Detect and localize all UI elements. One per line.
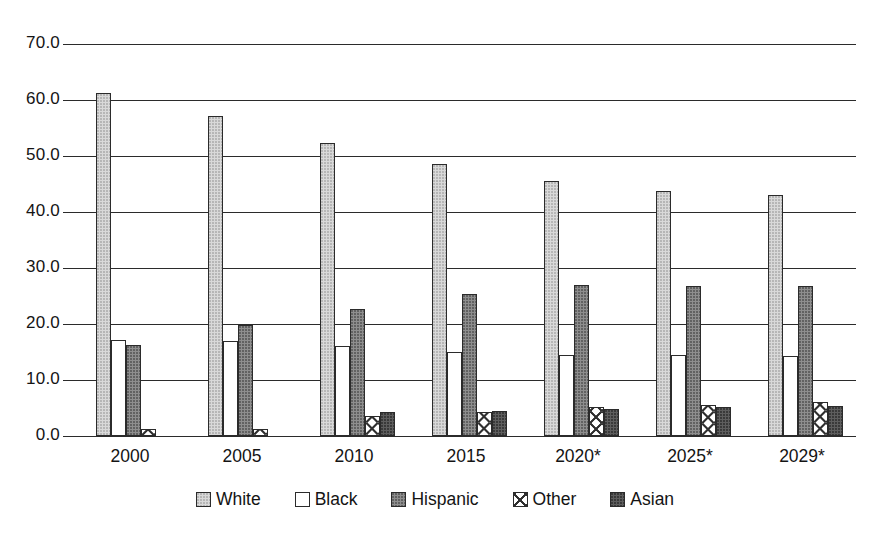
bar-asian-2020star bbox=[604, 409, 619, 436]
bar-asian-2025star bbox=[716, 407, 731, 436]
bar-group bbox=[72, 44, 184, 436]
bar-hispanic-2020star bbox=[574, 285, 589, 436]
legend-label: Hispanic bbox=[411, 489, 478, 510]
plot-area: 0.010.020.030.040.050.060.070.0 bbox=[72, 44, 856, 436]
legend-item-white[interactable]: White bbox=[196, 489, 261, 510]
x-axis-label-2005: 2005 bbox=[223, 446, 262, 467]
x-axis-labels: 20002005201020152020*2025*2029* bbox=[72, 446, 856, 476]
bar-white-2005 bbox=[208, 116, 223, 436]
bar-group bbox=[408, 44, 520, 436]
chart-legend: WhiteBlackHispanicOtherAsian bbox=[0, 484, 870, 514]
bar-white-2029star bbox=[768, 195, 783, 436]
x-axis-label-2010: 2010 bbox=[335, 446, 374, 467]
x-axis-label-2029star: 2029* bbox=[779, 446, 825, 467]
y-axis-tick-label: 10.0 bbox=[12, 369, 60, 389]
bar-black-2015 bbox=[447, 352, 462, 436]
bar-group bbox=[520, 44, 632, 436]
y-tick-mark bbox=[63, 212, 72, 213]
y-tick-mark bbox=[63, 268, 72, 269]
bar-hispanic-2015 bbox=[462, 294, 477, 436]
legend-swatch-black-icon bbox=[295, 492, 310, 507]
legend-swatch-white-icon bbox=[196, 492, 211, 507]
bar-other-2025star bbox=[701, 405, 716, 436]
x-axis-label-2025star: 2025* bbox=[667, 446, 713, 467]
bar-hispanic-2000 bbox=[126, 345, 141, 436]
y-axis-tick-label: 50.0 bbox=[12, 145, 60, 165]
y-tick-mark bbox=[63, 324, 72, 325]
y-tick-mark bbox=[63, 100, 72, 101]
bar-black-2010 bbox=[335, 346, 350, 436]
y-tick-mark bbox=[63, 380, 72, 381]
bar-black-2020star bbox=[559, 355, 574, 436]
legend-item-other[interactable]: Other bbox=[513, 489, 577, 510]
y-axis-tick-label: 60.0 bbox=[12, 89, 60, 109]
x-axis-label-2015: 2015 bbox=[447, 446, 486, 467]
legend-item-black[interactable]: Black bbox=[295, 489, 358, 510]
bar-black-2029star bbox=[783, 356, 798, 436]
bar-chart: 0.010.020.030.040.050.060.070.0 20002005… bbox=[0, 0, 870, 533]
bar-black-2025star bbox=[671, 355, 686, 436]
x-axis-label-2000: 2000 bbox=[111, 446, 150, 467]
bar-asian-2010 bbox=[380, 412, 395, 436]
bar-black-2005 bbox=[223, 341, 238, 436]
legend-label: Asian bbox=[630, 489, 674, 510]
bar-other-2005 bbox=[253, 429, 268, 436]
bar-asian-2015 bbox=[492, 411, 507, 436]
bar-white-2000 bbox=[96, 93, 111, 436]
legend-swatch-other-icon bbox=[513, 492, 528, 507]
y-axis-tick-label: 0.0 bbox=[12, 425, 60, 445]
legend-swatch-asian-icon bbox=[610, 492, 625, 507]
bar-group bbox=[744, 44, 856, 436]
bar-hispanic-2029star bbox=[798, 286, 813, 436]
bar-asian-2029star bbox=[828, 406, 843, 436]
bar-group bbox=[632, 44, 744, 436]
legend-label: Other bbox=[533, 489, 577, 510]
bar-white-2015 bbox=[432, 164, 447, 436]
bar-hispanic-2025star bbox=[686, 286, 701, 436]
y-axis-tick-label: 20.0 bbox=[12, 313, 60, 333]
legend-swatch-hispanic-icon bbox=[391, 492, 406, 507]
y-tick-mark bbox=[63, 44, 72, 45]
legend-label: White bbox=[216, 489, 261, 510]
bar-hispanic-2010 bbox=[350, 309, 365, 436]
y-tick-mark bbox=[63, 436, 72, 437]
legend-label: Black bbox=[315, 489, 358, 510]
bar-group bbox=[184, 44, 296, 436]
bar-other-2020star bbox=[589, 407, 604, 436]
bar-white-2020star bbox=[544, 181, 559, 436]
x-axis-label-2020star: 2020* bbox=[555, 446, 601, 467]
bar-group bbox=[296, 44, 408, 436]
y-axis-tick-label: 70.0 bbox=[12, 33, 60, 53]
bar-white-2010 bbox=[320, 143, 335, 436]
bar-other-2015 bbox=[477, 412, 492, 436]
bar-black-2000 bbox=[111, 340, 126, 436]
legend-item-asian[interactable]: Asian bbox=[610, 489, 674, 510]
bar-hispanic-2005 bbox=[238, 325, 253, 436]
bar-white-2025star bbox=[656, 191, 671, 436]
y-tick-mark bbox=[63, 156, 72, 157]
legend-item-hispanic[interactable]: Hispanic bbox=[391, 489, 478, 510]
bar-other-2029star bbox=[813, 402, 828, 436]
bar-other-2000 bbox=[141, 429, 156, 436]
bar-other-2010 bbox=[365, 416, 380, 436]
y-axis-tick-label: 40.0 bbox=[12, 201, 60, 221]
y-axis-tick-label: 30.0 bbox=[12, 257, 60, 277]
